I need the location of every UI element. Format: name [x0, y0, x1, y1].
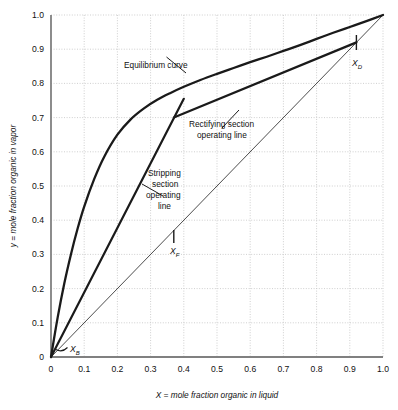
y-tick-label: 0.7: [32, 113, 44, 123]
x-tick-label: 0.2: [111, 364, 123, 374]
y-tick-label: 0.9: [32, 44, 44, 54]
x-tick-label: 0.7: [277, 364, 289, 374]
y-tick-label: 0: [39, 352, 44, 362]
x-tick-label: 0.6: [244, 364, 256, 374]
annotation-stripping-line-1: Stripping: [148, 168, 181, 178]
annotation-stripping-line-2: section: [152, 179, 179, 189]
annotation-rectifying-line-2: operating line: [197, 130, 247, 140]
x-tick-label: 0.4: [178, 364, 190, 374]
x-axis-label-text: X = mole fraction organic in liquid: [155, 390, 279, 400]
y-tick-label: 0.3: [32, 249, 44, 259]
annotation-stripping-line-3: operating: [146, 190, 181, 200]
x-tick-labels: 0 0.1 0.2 0.3 0.4 0.5 0.6 0.7 0.8 0.9 1.…: [49, 364, 390, 374]
x-tick-label: 0: [49, 364, 54, 374]
y-tick-labels: 0 0.1 0.2 0.3 0.4 0.5 0.6 0.7 0.8 0.9 1.…: [32, 10, 44, 362]
y-tick-label: 0.8: [32, 78, 44, 88]
y-tick-label: 0.1: [32, 318, 44, 328]
mccabe-thiele-diagram: 0 0.1 0.2 0.3 0.4 0.5 0.6 0.7 0.8 0.9 1.…: [0, 0, 398, 410]
y-axis-label-text: y = mole fraction organic in vapor: [8, 124, 18, 249]
point-label-xd-subscript: D: [358, 64, 363, 70]
x-tick-label: 0.9: [344, 364, 356, 374]
y-axis-label: y = mole fraction organic in vapor: [8, 124, 18, 249]
annotation-equilibrium-curve: Equilibrium curve: [124, 60, 188, 70]
x-tick-label: 0.8: [311, 364, 323, 374]
x-tick-label: 0.1: [78, 364, 90, 374]
annotation-rectifying-line-1: Rectifying section: [189, 119, 254, 129]
x-axis-label: X = mole fraction organic in liquid: [155, 390, 279, 400]
y-tick-label: 0.2: [32, 284, 44, 294]
annotation-stripping-line-4: line: [158, 201, 171, 211]
point-label-xf-subscript: F: [176, 252, 180, 258]
chart-figure: 0 0.1 0.2 0.3 0.4 0.5 0.6 0.7 0.8 0.9 1.…: [0, 0, 398, 410]
point-label-xb-subscript: B: [76, 350, 80, 356]
y-tick-label: 0.6: [32, 147, 44, 157]
x-tick-label: 0.5: [211, 364, 223, 374]
x-tick-label: 1.0: [377, 364, 389, 374]
y-tick-label: 0.5: [32, 181, 44, 191]
y-tick-label: 1.0: [32, 10, 44, 20]
y-tick-label: 0.4: [32, 215, 44, 225]
x-tick-label: 0.3: [145, 364, 157, 374]
